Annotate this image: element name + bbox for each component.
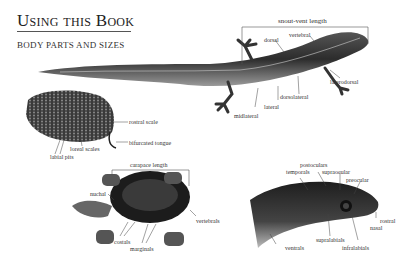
- label-vertebrals: vertebrals: [196, 218, 220, 224]
- label-carapace-length: carapace length: [130, 162, 167, 168]
- label-snout-vent-length: snout-vent length: [278, 18, 327, 25]
- label-supralabials: supralabials: [316, 237, 345, 243]
- label-costals: costals: [114, 239, 130, 245]
- label-nasal: nasal: [370, 225, 382, 231]
- label-nuchal: nuchal: [90, 191, 106, 197]
- label-vertebral: vertebral: [289, 32, 310, 38]
- label-supraocular: supraocular: [322, 169, 350, 175]
- snake-head-side-illustration: [250, 172, 378, 248]
- label-marginals: marginals: [130, 246, 154, 252]
- label-temporals: temporals: [286, 169, 310, 175]
- illustrations: [0, 0, 414, 274]
- label-dorsolateral: dorsolateral: [280, 94, 308, 100]
- label-rostral-scale: rostral scale: [129, 119, 158, 125]
- turtle-illustration: [72, 170, 196, 246]
- label-ventrals: ventrals: [285, 245, 304, 251]
- label-rostral: rostral: [380, 218, 395, 224]
- label-laterodorsal: laterodorsal: [330, 79, 358, 85]
- label-dorsal: dorsal: [264, 37, 279, 43]
- label-labial-pits: labial pits: [50, 154, 74, 160]
- label-postoculars: postoculars: [300, 162, 327, 168]
- label-infralabials: infralabials: [342, 245, 369, 251]
- label-midlateral: midlateral: [234, 113, 258, 119]
- snake-head-top-illustration: [26, 90, 128, 154]
- label-loreal-scales: loreal scales: [70, 146, 99, 152]
- label-lateral: lateral: [264, 104, 279, 110]
- label-bifurcated-tongue: bifurcated tongue: [129, 140, 171, 146]
- label-preocular: preocular: [346, 177, 369, 183]
